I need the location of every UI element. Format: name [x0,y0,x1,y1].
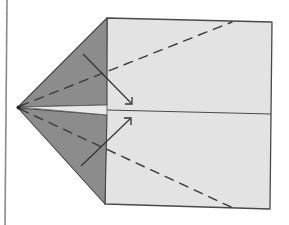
left-border-line [5,0,7,225]
upper-folded-flap [18,18,107,107]
origami-fold-diagram [0,0,289,225]
diagram-canvas [0,0,289,225]
nose-point [17,106,21,110]
lower-folded-flap [18,108,107,204]
